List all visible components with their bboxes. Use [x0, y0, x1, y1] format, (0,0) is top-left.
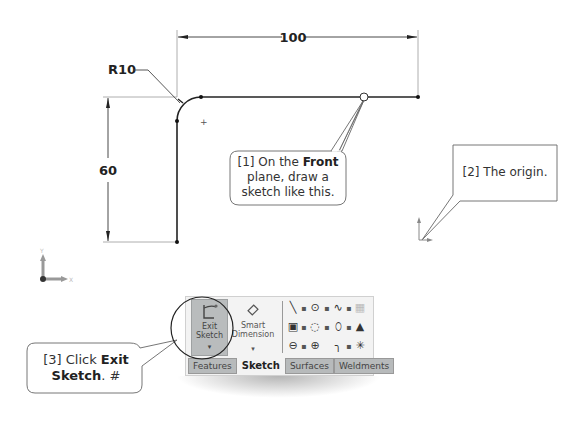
ribbon-separator — [282, 301, 283, 353]
svg-text:Y: Y — [39, 247, 44, 254]
tab-surfaces[interactable]: Surfaces — [285, 358, 334, 374]
ribbon-shadow — [176, 376, 381, 398]
svg-text:R10: R10 — [108, 62, 136, 77]
svg-text:100: 100 — [279, 30, 306, 45]
callout-step-3: [3] Click Exit Sketch. # — [34, 352, 138, 384]
axes-triad-icon: Y X — [39, 247, 73, 283]
circle-icon[interactable]: ⊙ — [307, 301, 323, 315]
smart-dimension-button[interactable]: Smart Dimension ▾ — [229, 299, 277, 354]
smart-dimension-icon — [244, 302, 262, 320]
polygon-icon[interactable]: ⊕ — [307, 339, 323, 353]
tab-sketch[interactable]: Sketch — [237, 358, 285, 374]
grid-icon[interactable]: ▦ — [352, 301, 368, 315]
tab-weldments[interactable]: Weldments — [334, 358, 394, 374]
line-dropdown[interactable]: ▪ — [301, 304, 306, 313]
point-icon[interactable]: ✳ — [352, 339, 368, 353]
spline-dropdown[interactable]: ▪ — [346, 304, 351, 313]
slot-icon[interactable]: ⊖ — [285, 339, 301, 353]
callout-2-text: [2] The origin. — [463, 165, 548, 179]
callout-step-2: [2] The origin. — [455, 165, 555, 180]
circle-dropdown[interactable]: ▪ — [324, 304, 329, 313]
fillet-icon[interactable]: ╮ — [330, 339, 346, 353]
triangle-pattern-icon[interactable]: ▲ — [352, 320, 368, 334]
line-icon[interactable]: ╲ — [285, 301, 301, 315]
slot-dropdown[interactable]: ▪ — [301, 342, 306, 351]
arc-dropdown[interactable]: ▪ — [324, 323, 329, 332]
rectangle-icon[interactable]: ▣ — [285, 320, 301, 334]
exit-sketch-label-1: Exit — [192, 322, 227, 331]
callout-3-suffix: . # — [101, 368, 120, 383]
smart-dimension-dropdown[interactable]: ▾ — [229, 345, 277, 354]
smart-dimension-label-1: Smart — [229, 321, 277, 330]
ellipse-icon[interactable]: ⬯ — [330, 320, 346, 334]
exit-sketch-label-2: Sketch — [192, 331, 227, 340]
callout-2-shape — [422, 145, 557, 240]
smart-dimension-label-2: Dimension — [229, 330, 277, 339]
callout-1-prefix: [1] On the — [237, 155, 302, 169]
dimension-100[interactable]: 100 — [178, 30, 417, 45]
svg-text:X: X — [69, 276, 73, 283]
exit-sketch-dropdown[interactable]: ▾ — [192, 343, 227, 352]
rectangle-dropdown[interactable]: ▪ — [301, 323, 306, 332]
fillet-dropdown[interactable]: ▪ — [346, 342, 351, 351]
dimension-60[interactable]: 60 — [99, 98, 117, 241]
callout-step-1: [1] On the Front plane, draw a sketch li… — [232, 155, 344, 200]
tab-features[interactable]: Features — [188, 358, 237, 374]
exit-sketch-icon — [199, 302, 221, 322]
ellipse-dropdown[interactable]: ▪ — [346, 323, 351, 332]
spline-icon[interactable]: ∿ — [330, 301, 346, 315]
callout-3-prefix: [3] Click — [43, 352, 101, 367]
arc-icon[interactable]: ◌ — [307, 320, 323, 334]
exit-sketch-button[interactable]: Exit Sketch ▾ — [191, 299, 228, 356]
callout-1-bold: Front — [303, 155, 339, 169]
callout-1-suffix: plane, draw a sketch like this. — [242, 170, 335, 199]
svg-text:60: 60 — [99, 163, 117, 178]
ribbon-tabs: Features Sketch Surfaces Weldments — [188, 358, 394, 372]
sketch-tools-grid: ╲ ▪ ⊙ ▪ ∿ ▪ ▦ ▣ ▪ ◌ ▪ ⬯ ▪ ▲ ⊖ ▪ ⊕ ╮ ▪ ✳ — [285, 299, 371, 355]
command-manager-ribbon: Exit Sketch ▾ Smart Dimension ▾ ╲ ▪ ⊙ ▪ … — [185, 296, 374, 376]
arc-center-mark: + — [200, 117, 208, 127]
